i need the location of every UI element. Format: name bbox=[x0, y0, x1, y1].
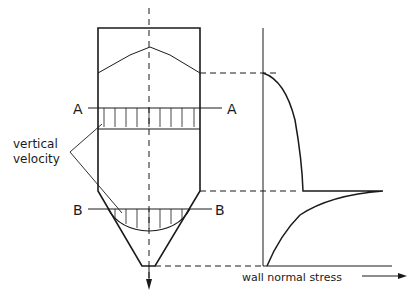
label-b-right: B bbox=[215, 202, 225, 218]
wall-stress-curve bbox=[263, 73, 383, 266]
velocity-arrows-a bbox=[104, 108, 194, 127]
label-vertical: vertical bbox=[13, 137, 58, 151]
silo-diagram: A A B B vertical velocity wall normal st… bbox=[0, 0, 411, 297]
fill-surface bbox=[98, 47, 200, 73]
label-a-right: A bbox=[227, 101, 237, 117]
label-stress-axis: wall normal stress bbox=[242, 271, 342, 284]
label-velocity: velocity bbox=[13, 152, 60, 166]
label-b-left: B bbox=[73, 202, 83, 218]
outlet-arrow-icon bbox=[146, 279, 152, 290]
label-a-left: A bbox=[73, 101, 83, 117]
velocity-leader bbox=[70, 124, 122, 213]
axis-arrow-icon bbox=[398, 273, 407, 279]
